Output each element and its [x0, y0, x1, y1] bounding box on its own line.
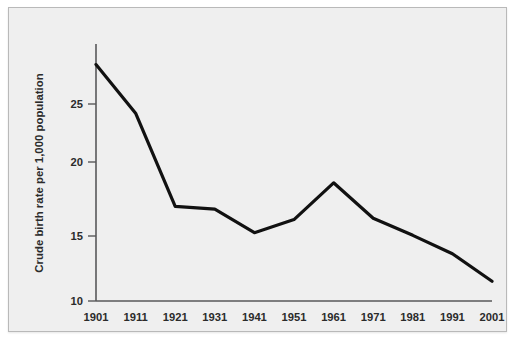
x-tick-label-1991: 1991	[440, 311, 465, 323]
x-tick-label-1911: 1911	[123, 311, 147, 323]
data-series-line	[96, 65, 492, 282]
x-tick-label-1921: 1921	[163, 311, 188, 323]
y-axis-title: Crude birth rate per 1,000 population	[33, 73, 45, 272]
x-tick-label-1941: 1941	[242, 311, 267, 323]
y-tick-label-25: 25	[71, 98, 83, 110]
x-tick-label-1951: 1951	[282, 311, 307, 323]
y-tick-label-20: 20	[71, 156, 83, 168]
line-chart: 25 20 15 10 1901 1911 1921 1931 1941 195…	[9, 8, 506, 331]
x-tick-label-1931: 1931	[202, 311, 227, 323]
x-tick-label-1981: 1981	[400, 311, 425, 323]
x-tick-label-2001: 2001	[480, 311, 505, 323]
chart-panel: 25 20 15 10 1901 1911 1921 1931 1941 195…	[8, 7, 507, 332]
figure-container: 25 20 15 10 1901 1911 1921 1931 1941 195…	[0, 0, 515, 346]
y-tick-label-10: 10	[71, 295, 83, 307]
x-tick-label-1901: 1901	[84, 311, 109, 323]
y-axis-ticks	[88, 104, 96, 301]
x-tick-label-1971: 1971	[361, 311, 386, 323]
y-tick-label-15: 15	[71, 230, 83, 242]
x-tick-label-1961: 1961	[321, 311, 346, 323]
